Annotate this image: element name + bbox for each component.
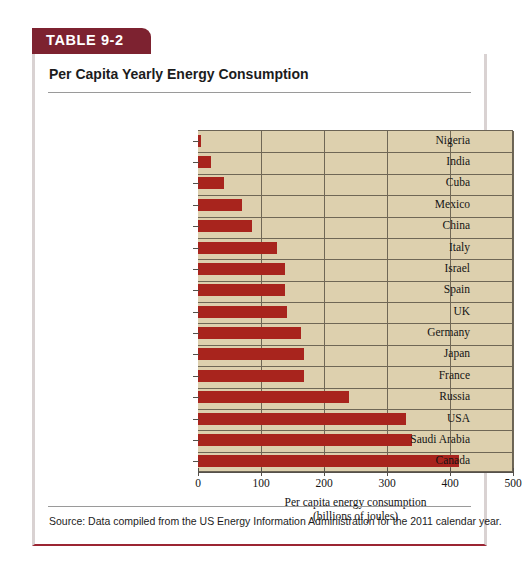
category-label-nigeria: Nigeria	[358, 134, 470, 146]
title-divider	[48, 92, 471, 93]
bar-germany	[198, 327, 301, 339]
x-axis-line	[198, 472, 514, 473]
gridline-horizontal	[198, 174, 512, 175]
gridline-horizontal	[198, 409, 512, 410]
category-label-spain: Spain	[358, 283, 470, 295]
category-label-uk: UK	[358, 305, 470, 317]
bar-italy	[198, 242, 277, 254]
gridline-horizontal	[198, 452, 512, 453]
gridline-horizontal	[198, 217, 512, 218]
bar-cuba	[198, 177, 224, 189]
category-label-saudi-arabia: Saudi Arabia	[358, 433, 470, 445]
table-figure: TABLE 9-2 Per Capita Yearly Energy Consu…	[32, 28, 487, 546]
x-tick	[324, 468, 325, 476]
y-tick	[193, 440, 199, 441]
x-tick	[261, 468, 262, 476]
gridline-horizontal	[198, 302, 512, 303]
bar-mexico	[198, 199, 242, 211]
y-tick	[193, 226, 199, 227]
x-tick-label: 0	[195, 477, 201, 489]
gridline-vertical	[513, 131, 514, 471]
page-title: Per Capita Yearly Energy Consumption	[49, 66, 309, 82]
x-tick	[450, 468, 451, 476]
bar-russia	[198, 391, 349, 403]
category-label-cuba: Cuba	[358, 176, 470, 188]
y-tick	[193, 312, 199, 313]
y-tick	[193, 248, 199, 249]
source-note: Source: Data compiled from the US Energy…	[49, 515, 502, 527]
bar-israel	[198, 263, 285, 275]
category-label-italy: Italy	[358, 241, 470, 253]
x-tick-label: 100	[252, 477, 269, 489]
gridline-horizontal	[198, 388, 512, 389]
bar-spain	[198, 284, 285, 296]
table-number-label: TABLE 9-2	[46, 32, 124, 48]
bar-chart: Per capita energy consumption (billions …	[80, 110, 470, 482]
category-label-israel: Israel	[358, 262, 470, 274]
gridline-horizontal	[198, 323, 512, 324]
bar-france	[198, 370, 304, 382]
gridline-horizontal	[198, 238, 512, 239]
gridline-horizontal	[198, 345, 512, 346]
gridline-horizontal	[198, 195, 512, 196]
bar-japan	[198, 348, 304, 360]
table-number-banner: TABLE 9-2	[32, 28, 151, 54]
bar-china	[198, 220, 252, 232]
gridline-horizontal	[198, 259, 512, 260]
y-tick	[193, 162, 199, 163]
y-tick	[193, 419, 199, 420]
x-tick	[387, 468, 388, 476]
y-tick	[193, 183, 199, 184]
source-divider	[48, 506, 471, 507]
category-label-canada: Canada	[358, 454, 470, 466]
x-tick-label: 500	[504, 477, 521, 489]
gridline-horizontal	[198, 366, 512, 367]
category-label-usa: USA	[358, 412, 470, 424]
y-tick	[193, 354, 199, 355]
category-label-germany: Germany	[358, 326, 470, 338]
x-tick	[198, 468, 199, 476]
gridline-horizontal	[198, 281, 512, 282]
category-label-france: France	[358, 369, 470, 381]
bar-uk	[198, 306, 287, 318]
category-label-india: India	[358, 155, 470, 167]
y-tick	[193, 141, 199, 142]
table-body-card: Per Capita Yearly Energy Consumption Per…	[32, 54, 487, 546]
gridline-horizontal	[198, 430, 512, 431]
category-label-mexico: Mexico	[358, 198, 470, 210]
y-tick	[193, 269, 199, 270]
y-tick	[193, 461, 199, 462]
bar-india	[198, 156, 211, 168]
y-tick	[193, 333, 199, 334]
x-tick-label: 300	[378, 477, 395, 489]
y-tick	[193, 290, 199, 291]
x-tick-label: 200	[315, 477, 332, 489]
x-tick-label: 400	[441, 477, 458, 489]
y-tick	[193, 397, 199, 398]
category-label-japan: Japan	[358, 347, 470, 359]
y-tick	[193, 205, 199, 206]
y-tick	[193, 376, 199, 377]
category-label-china: China	[358, 219, 470, 231]
category-label-russia: Russia	[358, 390, 470, 402]
gridline-horizontal	[198, 152, 512, 153]
x-tick	[513, 468, 514, 476]
